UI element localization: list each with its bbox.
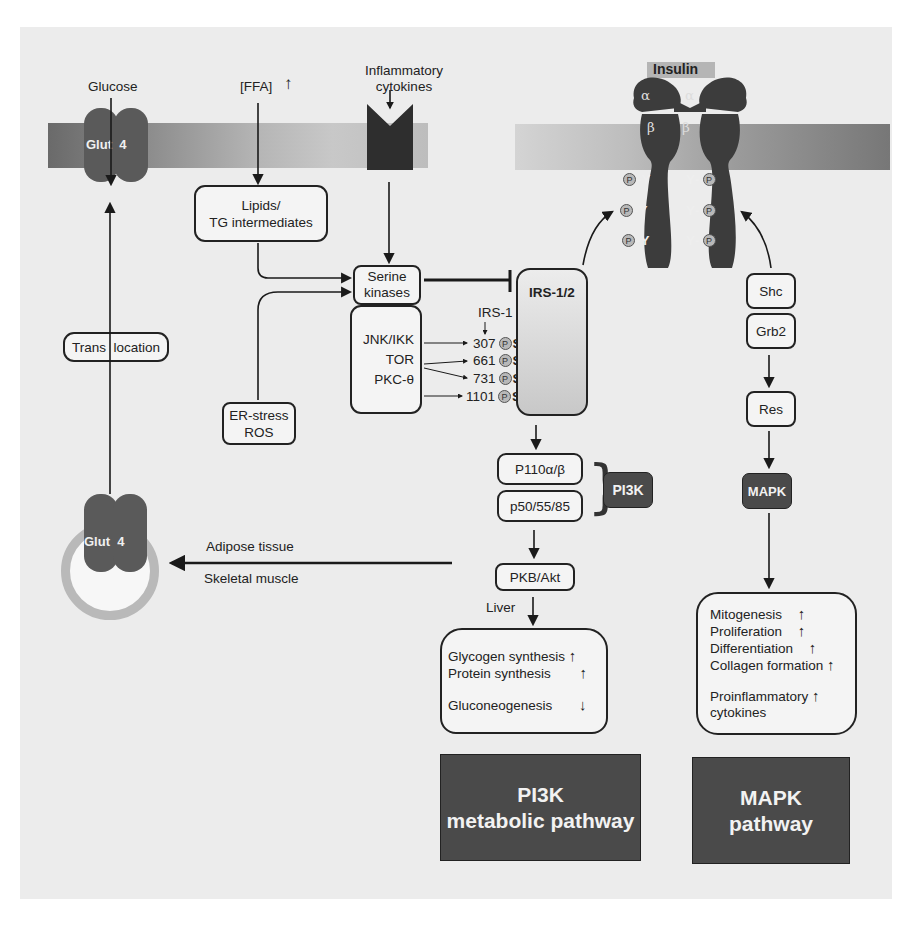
alpha-right: α	[685, 87, 694, 103]
outcome-gluconeogenesis: Gluconeogenesis ↓	[448, 697, 587, 714]
irs1-site-label: IRS-1	[478, 305, 513, 321]
outcome-proliferation: Proliferation ↑	[710, 623, 805, 640]
grb2-box: Grb2	[746, 313, 796, 349]
beta-right: β	[682, 119, 690, 135]
serine-kinase-members-box: JNK/IKK TOR PKC-θ	[350, 305, 422, 414]
skeletal-muscle-label: Skeletal muscle	[204, 571, 299, 587]
increase-icon: ↑	[812, 687, 820, 704]
increase-icon: ↑	[798, 605, 806, 622]
phospho-tyrosine-left-3: P-Y	[619, 233, 650, 248]
serine-site-1101: 1101PS	[466, 389, 521, 404]
decrease-icon: ↓	[579, 696, 587, 713]
cytokine-receptor-icon	[367, 104, 413, 170]
outcome-protein-synthesis: Protein synthesis ↑	[448, 665, 587, 682]
increase-icon: ↑	[827, 656, 835, 673]
increase-icon: ↑	[809, 639, 817, 656]
phospho-tyrosine-left-2: P-Y	[617, 203, 648, 218]
outcome-proinflammatory: Proinflammatory ↑	[710, 688, 820, 705]
serine-site-661: 661PS	[473, 353, 522, 368]
kinase-pkc-theta: PKC-θ	[374, 370, 414, 390]
er-stress-ros-box: ER-stress ROS	[222, 402, 296, 445]
increase-icon: ↑	[798, 622, 806, 639]
ffa-increase-icon: ↑	[284, 76, 293, 92]
mapk-label-box: MAPK	[742, 473, 792, 509]
glut4-vesicle-transporter	[84, 494, 150, 572]
phospho-tyrosine-left-1: P-Y	[620, 172, 651, 187]
increase-icon: ↑	[569, 647, 577, 664]
outcome-differentiation: Differentiation ↑	[710, 640, 816, 657]
p50-box: p50/55/85	[497, 490, 583, 522]
kinase-tor: TOR	[386, 350, 414, 370]
serine-site-307: 307PS	[473, 336, 522, 351]
outcome-cytokines: cytokines	[710, 705, 766, 721]
pi3k-metabolic-pathway-box: PI3K metabolic pathway	[440, 754, 641, 861]
adipose-tissue-label: Adipose tissue	[206, 539, 294, 555]
phospho-tyrosine-right-3: Y-P	[686, 233, 717, 248]
serine-kinases-box: Serine kinases	[353, 265, 421, 305]
translocation-box: Trans location	[63, 332, 169, 362]
alpha-left: α	[641, 87, 650, 103]
liver-label: Liver	[486, 600, 515, 616]
p110-box: P110α/β	[497, 453, 583, 485]
outcome-mitogenesis: Mitogenesis ↑	[710, 606, 805, 623]
serine-site-731: 731PS	[473, 371, 522, 386]
ffa-label: [FFA]	[240, 79, 272, 95]
irs-1-2-box: IRS-1/2	[516, 268, 588, 416]
lipids-tg-box: Lipids/ TG intermediates	[194, 185, 328, 242]
pi3k-label-box: PI3K	[603, 472, 653, 508]
outcome-collagen-formation: Collagen formation ↑	[710, 657, 835, 674]
mapk-pathway-box: MAPK pathway	[692, 757, 850, 864]
res-box: Res	[746, 391, 796, 427]
cytokines-label: Inflammatory cytokines	[344, 63, 464, 95]
glut4-membrane-label: Glut 4	[86, 137, 126, 153]
kinase-jnk-ikk: JNK/IKK	[363, 330, 414, 350]
pkb-akt-box: PKB/Akt	[495, 563, 575, 591]
glucose-label: Glucose	[88, 79, 138, 95]
increase-icon: ↑	[580, 664, 588, 681]
glut4-vesicle-label: Glut 4	[84, 534, 124, 550]
outcome-glycogen-synthesis: Glycogen synthesis ↑	[448, 648, 576, 665]
phospho-tyrosine-right-2: Y-P	[686, 203, 717, 218]
phospho-tyrosine-right-1: Y-P	[686, 172, 717, 187]
shc-box: Shc	[746, 273, 796, 309]
beta-left: β	[647, 119, 655, 135]
